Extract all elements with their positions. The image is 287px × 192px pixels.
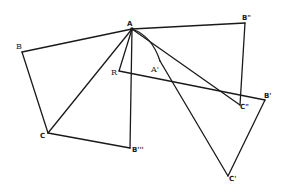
label-r: R: [111, 68, 118, 77]
label-b: B: [16, 42, 22, 51]
segment-a-r: [119, 29, 132, 71]
label-a1: A': [150, 65, 159, 74]
label-b1: B': [264, 92, 271, 100]
segment-c-a: [48, 29, 132, 133]
label-b3: B''': [132, 146, 144, 154]
label-b2: B": [242, 14, 251, 22]
label-c: C: [40, 132, 45, 140]
segment-c-b3: [48, 133, 130, 148]
geometry-diagram: A B B" R A' C B''' C" B' C': [0, 0, 287, 192]
segment-b2-c2: [240, 23, 245, 105]
label-c2: C": [240, 103, 249, 111]
segment-r-b1: [119, 71, 265, 100]
segment-a1-c1: [160, 61, 228, 176]
segment-a-b2: [132, 23, 245, 29]
segment-b-c: [22, 52, 48, 133]
segment-b1-c1: [228, 100, 265, 176]
label-c1: C': [229, 175, 236, 183]
segment-b3-a: [130, 29, 132, 148]
label-a: A: [127, 20, 133, 28]
